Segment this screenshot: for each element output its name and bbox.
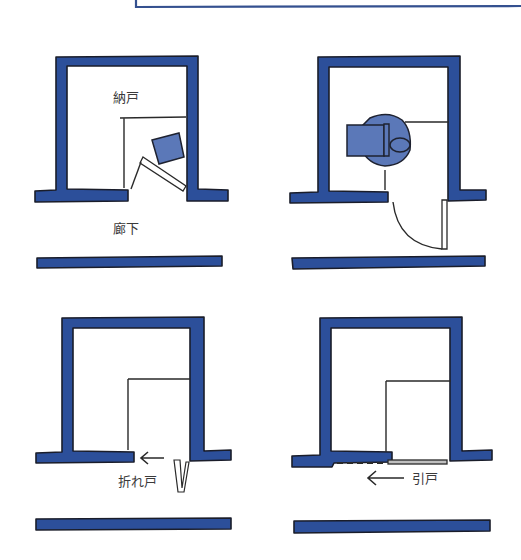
arrow-left-icon (141, 452, 164, 464)
room-wall (35, 56, 228, 202)
panel-sliding-door: 引戸 (292, 317, 492, 533)
arrow-left-icon (368, 471, 404, 485)
panel-folding-door: 折れ戸 (36, 317, 231, 530)
door-leaf (442, 200, 447, 249)
blocking-box (152, 133, 184, 164)
folding-door-leaves (174, 460, 189, 492)
corridor-wall (294, 520, 490, 533)
sliding-door-panel (388, 460, 447, 464)
door-swing-edge (131, 162, 141, 189)
floor-plan-figure: 納戸 廊下 折れ戸 (0, 0, 521, 560)
caption-box-frame (136, 0, 521, 7)
room-wall (292, 317, 492, 467)
corridor-label: 廊下 (113, 221, 139, 236)
corridor-wall (292, 256, 485, 269)
inner-space-outline (386, 381, 451, 452)
room-label: 納戸 (113, 90, 139, 105)
corridor-wall (37, 256, 222, 268)
room-wall (36, 317, 231, 463)
panel-hinged-door-outward (290, 56, 486, 269)
door-type-label: 引戸 (412, 471, 438, 486)
door-swing-arc (393, 202, 442, 249)
wheelchair-icon (347, 114, 410, 166)
inner-space-outline (128, 379, 190, 450)
panel-hinged-door-inward: 納戸 廊下 (35, 56, 228, 268)
corridor-wall (36, 518, 231, 530)
door-type-label: 折れ戸 (118, 474, 157, 489)
